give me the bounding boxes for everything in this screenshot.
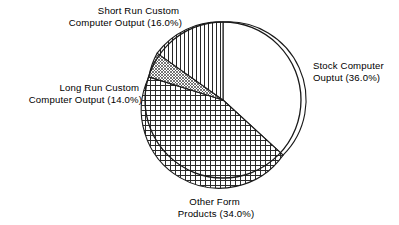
slice-label-long-run-custom-line1: Long Run Custom: [60, 82, 140, 93]
slice-label-short-run-custom-line1: Short Run Custom: [98, 5, 179, 16]
pie-chart-canvas: Short Run Custom Computer Output (16.0%)…: [0, 0, 399, 225]
slice-label-stock-computer: Stock Computer Ouptut (36.0%): [313, 60, 387, 83]
slice-label-long-run-custom: Long Run Custom Computer Output (14.0%): [29, 82, 142, 105]
slice-label-short-run-custom-line2: Computer Output (16.0%): [69, 17, 182, 28]
slice-label-stock-computer-line2: Ouptut (36.0%): [313, 72, 380, 83]
slice-label-stock-computer-line1: Stock Computer: [313, 60, 385, 71]
slice-label-short-run-custom: Short Run Custom Computer Output (16.0%): [69, 5, 182, 28]
pie-chart-figure: Short Run Custom Computer Output (16.0%)…: [0, 0, 399, 225]
slice-label-long-run-custom-line2: Computer Output (14.0%): [29, 94, 142, 105]
slice-label-other-form-products-line1: Other Form: [189, 196, 240, 207]
slice-label-other-form-products: Other Form Products (34.0%): [178, 196, 255, 219]
slice-label-other-form-products-line2: Products (34.0%): [178, 208, 255, 219]
